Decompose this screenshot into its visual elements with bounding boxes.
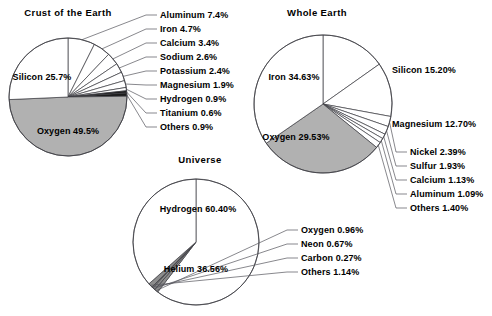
- label-hydrogen: Hydrogen 60.40%: [160, 204, 237, 214]
- charts-root: Aluminum 7.4%Iron 4.7%Calcium 3.4%Sodium…: [9, 7, 483, 305]
- label-sodium: Sodium 2.6%: [160, 52, 217, 62]
- label-helium: Helium 36.56%: [164, 264, 228, 274]
- elemental-composition-figure: Aluminum 7.4%Iron 4.7%Calcium 3.4%Sodium…: [0, 0, 492, 316]
- wedges: [9, 38, 127, 156]
- label-silicon: Silicon 25.7%: [13, 72, 72, 82]
- label-magnesium: Magnesium 12.70%: [392, 119, 476, 129]
- pie-chart-crust-of-the-earth: Aluminum 7.4%Iron 4.7%Calcium 3.4%Sodium…: [9, 7, 234, 156]
- label-silicon: Silicon 15.20%: [392, 65, 456, 75]
- leader-line-magnesium: [125, 84, 157, 85]
- leader-line-others: [127, 95, 157, 127]
- leader-line-aluminum: [82, 15, 157, 40]
- label-calcium: Calcium 3.4%: [160, 38, 219, 48]
- label-others: Others 1.14%: [301, 267, 359, 277]
- label-sulfur: Sulfur 1.93%: [410, 161, 465, 171]
- label-titanium: Titanium 0.6%: [160, 108, 222, 118]
- label-oxygen: Oxygen 29.53%: [262, 132, 329, 142]
- wedges: [133, 179, 259, 305]
- leader-line-calcium: [113, 43, 157, 59]
- label-others: Others 0.9%: [160, 122, 213, 132]
- leader-line-calcium: [384, 136, 407, 180]
- label-iron: Iron 4.7%: [160, 24, 201, 34]
- leader-line-sulfur: [386, 130, 407, 166]
- leader-line-iron: [102, 29, 157, 49]
- label-magnesium: Magnesium 1.9%: [160, 80, 234, 90]
- label-hydrogen: Hydrogen 0.9%: [160, 94, 226, 104]
- label-aluminum: Aluminum 1.09%: [410, 189, 483, 199]
- pie-slice-silicon[interactable]: [9, 38, 68, 100]
- chart-title: Universe: [178, 154, 221, 165]
- label-iron: Iron 34.63%: [268, 72, 319, 82]
- pie-chart-universe: Hydrogen 60.40%Oxygen 0.96%Neon 0.67%Car…: [133, 154, 363, 305]
- label-others: Others 1.40%: [410, 203, 468, 213]
- leader-line-sodium: [119, 57, 157, 68]
- chart-title: Whole Earth: [287, 7, 347, 18]
- label-potassium: Potassium 2.4%: [160, 66, 230, 76]
- leader-line-potassium: [123, 71, 157, 76]
- label-aluminum: Aluminum 7.4%: [160, 10, 228, 20]
- label-carbon: Carbon 0.27%: [301, 253, 362, 263]
- chart-title: Crust of the Earth: [24, 7, 111, 18]
- pie-charts-canvas: Aluminum 7.4%Iron 4.7%Calcium 3.4%Sodium…: [0, 0, 492, 316]
- label-oxygen: Oxygen 0.96%: [301, 225, 363, 235]
- leader-line-aluminum: [381, 140, 407, 194]
- label-neon: Neon 0.67%: [301, 239, 353, 249]
- pie-chart-whole-earth: Silicon 15.20%Magnesium 12.70%Nickel 2.3…: [254, 7, 483, 213]
- label-nickel: Nickel 2.39%: [410, 147, 466, 157]
- wedges: [254, 35, 392, 173]
- label-oxygen: Oxygen 49.5%: [37, 126, 99, 136]
- leader-line-hydrogen: [126, 89, 157, 99]
- label-calcium: Calcium 1.13%: [410, 175, 474, 185]
